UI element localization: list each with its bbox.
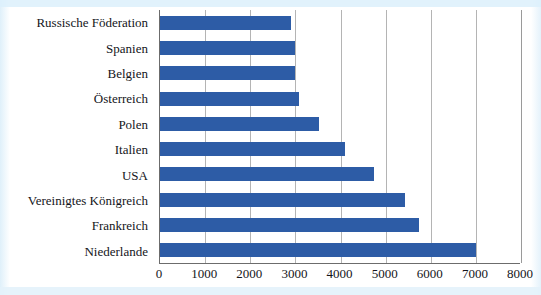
- bar: [160, 142, 345, 156]
- bar: [160, 218, 419, 232]
- value-tick-label: 3000: [281, 266, 307, 282]
- category-label-row: Niederlande: [4, 239, 154, 264]
- category-label: Niederlande: [84, 245, 148, 258]
- category-label: USA: [122, 169, 148, 182]
- bar-row: [160, 61, 520, 86]
- bar-row: [160, 136, 520, 161]
- bar: [160, 117, 319, 131]
- category-label: Belgien: [108, 67, 148, 80]
- bar: [160, 193, 405, 207]
- category-label: Spanien: [106, 42, 148, 55]
- category-axis-labels: Russische FöderationSpanienBelgienÖsterr…: [4, 10, 154, 264]
- bar-row: [160, 111, 520, 136]
- bar: [160, 167, 374, 181]
- plot-area: [159, 10, 520, 264]
- category-label-row: Vereinigtes Königreich: [4, 188, 154, 213]
- category-label-row: Frankreich: [4, 213, 154, 238]
- value-axis-ticks: 010002000300040005000600070008000: [159, 266, 520, 288]
- category-label-row: Polen: [4, 112, 154, 137]
- category-label: Russische Föderation: [36, 16, 148, 29]
- horizontal-bar-chart: Russische FöderationSpanienBelgienÖsterr…: [0, 0, 541, 295]
- value-tick-label: 6000: [417, 266, 443, 282]
- category-label: Österreich: [94, 92, 148, 105]
- bar-row: [160, 238, 520, 263]
- value-tick-label: 2000: [236, 266, 262, 282]
- category-label: Italien: [115, 143, 148, 156]
- bar: [160, 92, 299, 106]
- value-tick-label: 0: [156, 266, 163, 282]
- category-label: Frankreich: [92, 219, 148, 232]
- bar: [160, 41, 295, 55]
- bar-row: [160, 35, 520, 60]
- category-label-row: Belgien: [4, 61, 154, 86]
- bar-row: [160, 212, 520, 237]
- value-tick-label: 4000: [327, 266, 353, 282]
- bar-row: [160, 86, 520, 111]
- category-label: Vereinigtes Königreich: [28, 194, 148, 207]
- bar-row: [160, 162, 520, 187]
- category-label-row: Russische Föderation: [4, 10, 154, 35]
- category-label-row: USA: [4, 162, 154, 187]
- value-tick-label: 1000: [191, 266, 217, 282]
- value-tick-label: 8000: [507, 266, 533, 282]
- bar: [160, 243, 476, 257]
- category-label: Polen: [118, 118, 148, 131]
- bar: [160, 16, 291, 30]
- chart-page: Russische FöderationSpanienBelgienÖsterr…: [0, 0, 541, 295]
- value-tick-label: 7000: [462, 266, 488, 282]
- bar-series: [160, 10, 520, 263]
- bar: [160, 66, 295, 80]
- category-label-row: Italien: [4, 137, 154, 162]
- category-label-row: Spanien: [4, 35, 154, 60]
- bar-row: [160, 10, 520, 35]
- category-label-row: Österreich: [4, 86, 154, 111]
- gridline: [521, 10, 522, 263]
- bar-row: [160, 187, 520, 212]
- value-tick-label: 5000: [372, 266, 398, 282]
